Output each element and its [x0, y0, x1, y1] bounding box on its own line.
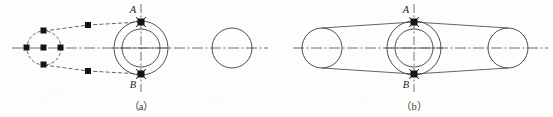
mechanism-figure: A B （a）	[0, 0, 553, 117]
crank-marker-left	[24, 45, 30, 51]
label-a-diagram-a: A	[129, 4, 137, 15]
crank-marker-right	[58, 45, 64, 51]
label-a-diagram-b: A	[402, 4, 410, 15]
link-lower-a	[44, 65, 141, 74]
crank-marker-bottom	[41, 62, 47, 68]
link-node-upper-a	[85, 22, 91, 28]
link-upper-a	[44, 22, 141, 31]
diagram-a: A B （a）	[12, 4, 268, 112]
crank-marker-center	[41, 45, 47, 51]
diagram-b: A B （b）	[293, 4, 548, 112]
caption-b: （b）	[401, 101, 426, 112]
point-a-marker-a	[136, 17, 146, 27]
label-b-diagram-a: B	[130, 79, 137, 90]
point-a-marker-b	[409, 17, 419, 27]
crank-marker-top	[41, 28, 47, 34]
point-b-marker-b	[409, 69, 419, 79]
link-node-lower-a	[85, 68, 91, 74]
point-b-marker-a	[136, 69, 146, 79]
caption-a: （a）	[129, 101, 154, 112]
label-b-diagram-b: B	[403, 79, 410, 90]
figure-root: · · · · · · · · · · · · · · · · · · · · …	[0, 0, 553, 117]
